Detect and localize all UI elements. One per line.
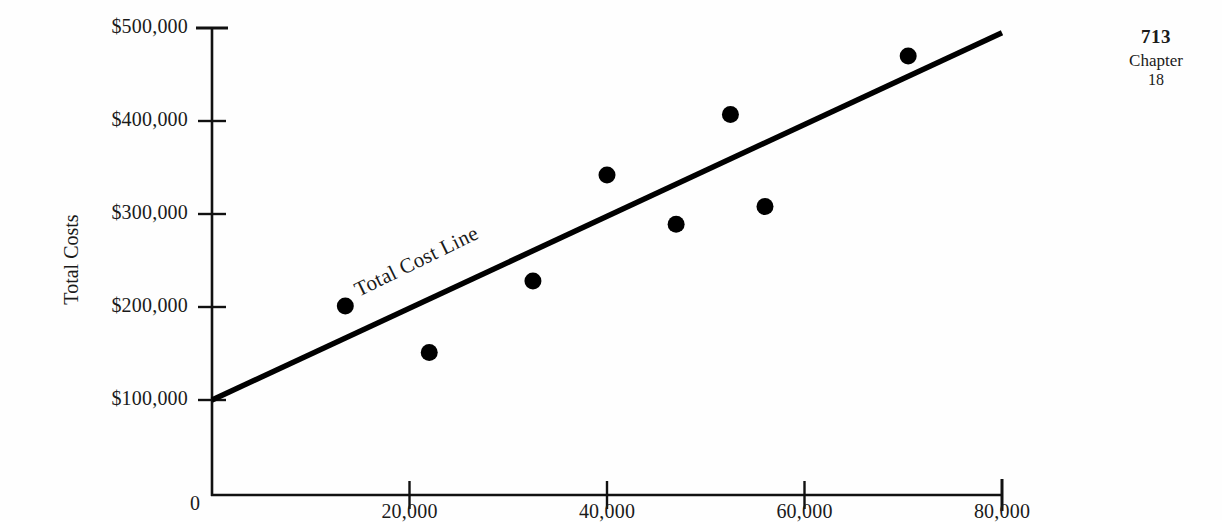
y-tick-label: $500,000 (48, 15, 188, 38)
page-number: 713 (1096, 26, 1216, 48)
chart-canvas (0, 0, 1060, 520)
x-tick-label: 60,000 (725, 500, 885, 523)
chapter-label: Chapter (1096, 51, 1216, 71)
chapter-number: 18 (1096, 71, 1216, 90)
x-tick-label: 40,000 (527, 500, 687, 523)
x-origin-label: 0 (190, 492, 200, 515)
y-tick-label: $100,000 (48, 387, 188, 410)
trend-line (212, 33, 1002, 400)
scatter-chart: $100,000$200,000$300,000$400,000$500,000… (0, 0, 1060, 520)
total-cost-trend-line (212, 33, 1002, 400)
data-point (668, 216, 685, 233)
data-point (757, 198, 774, 215)
data-point (599, 166, 616, 183)
x-tick-label: 80,000 (922, 500, 1082, 523)
data-point (722, 106, 739, 123)
page-running-head: 713 Chapter 18 (1096, 26, 1216, 90)
data-point (524, 272, 541, 289)
y-tick-label: $400,000 (48, 108, 188, 131)
data-point (900, 47, 917, 64)
x-tick-label: 20,000 (330, 500, 490, 523)
data-point (421, 344, 438, 361)
y-axis-title: Total Costs (60, 180, 83, 340)
axis-lines (211, 28, 1002, 496)
data-point (337, 298, 354, 315)
